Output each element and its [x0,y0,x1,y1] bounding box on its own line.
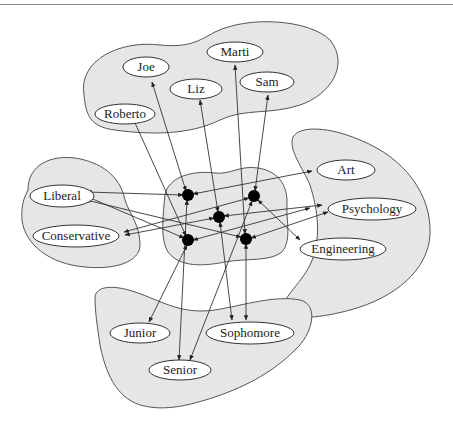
association-graph: Joe Marti Liz Sam Roberto Liberal Conser… [0,0,453,431]
node-liz[interactable]: Liz [170,79,222,99]
hub-node-2[interactable] [213,211,225,223]
node-label-senior: Senior [163,362,198,377]
node-label-art: Art [337,162,355,177]
node-label-liberal: Liberal [43,188,81,203]
node-joe[interactable]: Joe [123,57,169,77]
node-label-liz: Liz [187,81,205,96]
cluster-politics [22,157,140,267]
node-label-joe: Joe [137,59,155,74]
node-label-junior: Junior [124,325,157,340]
hub-node-1[interactable] [182,189,194,201]
cluster-year [95,287,312,408]
node-sophomore[interactable]: Sophomore [206,322,294,344]
node-label-sophomore: Sophomore [220,325,280,340]
node-art[interactable]: Art [317,160,375,180]
node-label-psychology: Psychology [342,201,403,216]
node-label-conservative: Conservative [42,228,111,243]
node-label-engineering: Engineering [311,241,375,256]
node-senior[interactable]: Senior [149,360,211,380]
node-roberto[interactable]: Roberto [95,104,155,124]
hub-node-4[interactable] [182,234,194,246]
node-marti[interactable]: Marti [207,42,263,62]
node-label-sam: Sam [255,74,278,89]
hub-node-5[interactable] [240,233,252,245]
node-sam[interactable]: Sam [240,72,294,92]
node-engineering[interactable]: Engineering [300,238,386,260]
diagram-canvas: Joe Marti Liz Sam Roberto Liberal Conser… [0,0,453,431]
hub-node-3[interactable] [248,190,260,202]
node-psychology[interactable]: Psychology [328,198,416,220]
node-label-marti: Marti [221,44,250,59]
node-junior[interactable]: Junior [110,323,170,343]
node-liberal[interactable]: Liberal [30,185,94,207]
node-conservative[interactable]: Conservative [33,225,119,247]
cluster-majors [283,129,430,317]
node-label-roberto: Roberto [104,106,146,121]
